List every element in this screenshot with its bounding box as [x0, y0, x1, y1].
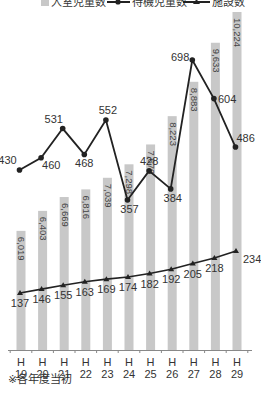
x-tick-label-era: H — [17, 356, 25, 368]
facility-value-label: 163 — [76, 286, 94, 298]
x-tick-label-year: 27 — [188, 368, 200, 380]
legend-label-waiting: 待機児童数 — [132, 0, 187, 9]
circle-marker-icon — [168, 186, 174, 192]
waiting-value-label: 460 — [42, 159, 60, 171]
waiting-value-label: 604 — [218, 93, 236, 105]
x-tick-label-era: H — [82, 356, 90, 368]
bar-value-label: 8,223 — [168, 122, 179, 146]
facility-value-label: 192 — [162, 273, 180, 285]
footnote: ※各年度当初 — [8, 370, 72, 386]
facility-value-label: 146 — [32, 293, 50, 305]
x-tick-label-year: 22 — [80, 368, 92, 380]
circle-marker-icon — [190, 57, 196, 63]
waiting-value-label: 428 — [140, 155, 158, 167]
legend-label-facility: 施設数 — [212, 0, 245, 9]
waiting-value-label: 430 — [0, 154, 17, 166]
legend: 入室児童数待機児童数施設数 — [41, 0, 245, 9]
facility-value-label: 155 — [54, 289, 72, 301]
x-tick-label-era: H — [39, 356, 47, 368]
x-tick-label-year: 29 — [231, 368, 243, 380]
bar-value-label: 9,633 — [211, 49, 222, 73]
x-tick-label-era: H — [147, 356, 155, 368]
x-tick-label-era: H — [211, 356, 219, 368]
legend-swatch-bar — [41, 0, 49, 6]
bar — [233, 12, 242, 350]
chart-canvas: 入室児童数待機児童数施設数 6,0196,4036,6696,8167,0397… — [0, 0, 261, 395]
x-tick-label-year: 25 — [144, 368, 156, 380]
bar-value-label: 6,816 — [81, 195, 92, 219]
bar-value-label: 10,224 — [232, 18, 243, 47]
circle-marker-icon — [233, 144, 239, 150]
bar-value-label: 6,669 — [60, 203, 71, 227]
circle-marker-icon — [103, 117, 109, 123]
waiting-value-label: 531 — [45, 113, 63, 125]
circle-marker-icon — [17, 167, 23, 173]
x-tick-label-year: 28 — [209, 368, 221, 380]
waiting-value-label: 384 — [164, 192, 182, 204]
legend-label-enrolled: 入室児童数 — [51, 0, 106, 9]
circle-marker-icon — [146, 168, 152, 174]
bar-value-label: 8,883 — [189, 88, 200, 112]
circle-marker-icon — [211, 96, 217, 102]
x-tick-label-year: 24 — [123, 368, 135, 380]
x-tick-label-era: H — [125, 356, 133, 368]
facility-value-label: 169 — [97, 283, 115, 295]
bar — [189, 82, 198, 350]
waiting-value-label: 552 — [99, 104, 117, 116]
circle-marker-icon — [115, 0, 120, 5]
x-tick-label-era: H — [190, 356, 198, 368]
circle-marker-icon — [125, 197, 131, 203]
bar — [168, 116, 177, 350]
circle-marker-icon — [60, 126, 66, 132]
x-tick-label-year: 26 — [166, 368, 178, 380]
facility-value-label: 137 — [11, 297, 29, 309]
facility-value-label: 218 — [205, 262, 223, 274]
facility-value-label: 205 — [184, 268, 202, 280]
facility-value-label: 234 — [243, 253, 261, 265]
bar-value-label: 6,403 — [38, 217, 49, 241]
x-tick-label-era: H — [103, 356, 111, 368]
circle-marker-icon — [82, 152, 88, 158]
waiting-value-label: 698 — [171, 51, 189, 63]
facility-value-label: 174 — [119, 281, 137, 293]
bar-value-label: 6,019 — [16, 237, 27, 261]
bar — [211, 43, 220, 350]
waiting-value-label: 357 — [120, 203, 138, 215]
x-tick-label-era: H — [168, 356, 176, 368]
facility-value-label: 182 — [140, 278, 158, 290]
x-tick-label-era: H — [60, 356, 68, 368]
line-series-facilities: 137146155163169174182192205218234 — [11, 248, 261, 309]
x-tick-label-year: 23 — [101, 368, 113, 380]
waiting-value-label: 468 — [75, 157, 93, 169]
x-tick-label-era: H — [233, 356, 241, 368]
waiting-value-label: 486 — [237, 132, 255, 144]
bar-value-label: 7,039 — [103, 184, 114, 208]
